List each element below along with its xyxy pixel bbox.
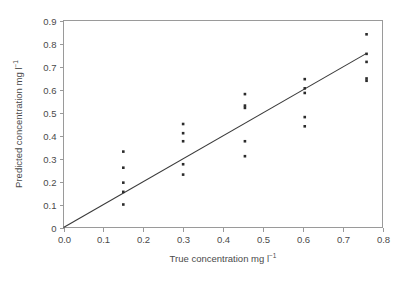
svg-text:Predicted concentration mg l−1: Predicted concentration mg l−1 <box>12 60 24 188</box>
data-point <box>182 163 185 166</box>
fit-line <box>64 53 367 227</box>
data-point <box>244 155 247 158</box>
data-point <box>122 191 125 194</box>
x-tick-label-0: 0.0 <box>58 234 71 245</box>
svg-text:True concentration mg l−1: True concentration mg l−1 <box>170 252 277 264</box>
y-axis-title-superscript: −1 <box>12 60 19 68</box>
data-point <box>303 125 306 128</box>
y-axis-title: Predicted concentration mg l−1 <box>12 60 24 188</box>
y-tick-label-8: 0.8 <box>43 39 56 50</box>
y-tick-label-9: 0.9 <box>43 16 56 27</box>
y-tick-label-6: 0.6 <box>43 85 56 96</box>
y-tick-label-3: 0.3 <box>43 154 56 165</box>
data-points <box>122 33 368 206</box>
data-point <box>365 33 368 36</box>
y-tick-label-1: 0.1 <box>43 200 56 211</box>
x-tick-label-1: 0.1 <box>97 234 110 245</box>
x-tick-label-2: 0.2 <box>137 234 150 245</box>
data-point <box>244 107 247 110</box>
y-tick-label-7: 0.7 <box>43 62 56 73</box>
x-tick-label-3: 0.3 <box>177 234 190 245</box>
figure-container: 00.10.20.30.40.50.60.70.80.9 0.00.10.20.… <box>0 0 404 284</box>
data-point <box>122 181 125 184</box>
data-point <box>182 173 185 176</box>
y-tick-label-4: 0.4 <box>43 131 56 142</box>
scatter-plot: 00.10.20.30.40.50.60.70.80.9 0.00.10.20.… <box>0 0 404 284</box>
x-axis-title: True concentration mg l−1 <box>170 252 277 264</box>
x-tick-label-8: 0.8 <box>377 234 390 245</box>
data-point <box>303 78 306 81</box>
data-point <box>122 150 125 153</box>
y-axis-tick-labels: 00.10.20.30.40.50.60.70.80.9 <box>43 16 56 234</box>
data-point <box>122 203 125 206</box>
x-axis-tick-labels: 0.00.10.20.30.40.50.60.70.8 <box>58 234 390 245</box>
data-point <box>303 92 306 95</box>
data-point <box>365 77 368 80</box>
data-point <box>365 79 368 82</box>
x-tick-label-4: 0.4 <box>217 234 230 245</box>
data-point <box>303 116 306 119</box>
y-tick-label-0: 0 <box>51 223 56 234</box>
y-axis-ticks <box>60 22 64 229</box>
y-axis-title-text: Predicted concentration mg l <box>13 68 24 188</box>
plot-frame <box>64 21 383 228</box>
data-point <box>244 93 247 96</box>
data-point <box>303 87 306 90</box>
data-point <box>182 132 185 135</box>
data-point <box>365 53 368 56</box>
data-point <box>182 123 185 126</box>
x-tick-label-5: 0.5 <box>257 234 270 245</box>
x-axis-title-superscript: −1 <box>269 252 277 259</box>
x-axis-title-text: True concentration mg l <box>170 253 269 264</box>
data-point <box>244 104 247 107</box>
y-tick-label-5: 0.5 <box>43 108 56 119</box>
x-tick-label-6: 0.6 <box>297 234 310 245</box>
regression-line <box>64 53 367 227</box>
data-point <box>122 166 125 169</box>
data-point <box>365 61 368 64</box>
data-point <box>244 140 247 143</box>
x-tick-label-7: 0.7 <box>337 234 350 245</box>
y-tick-label-2: 0.2 <box>43 177 56 188</box>
data-point <box>182 140 185 143</box>
x-axis-ticks <box>65 228 384 232</box>
